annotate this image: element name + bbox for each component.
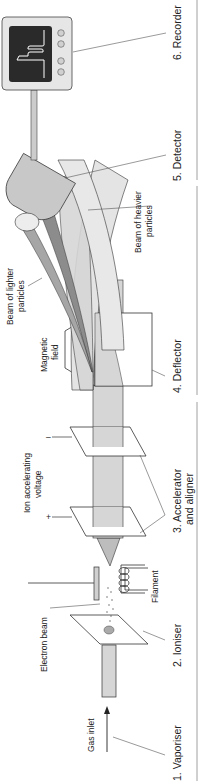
lighter-beam-label-1: Beam of lighter bbox=[5, 268, 15, 325]
mass-spectrometer-diagram: 1. Vaporiser 2. Ioniser 3. Accelerator a… bbox=[0, 0, 199, 781]
ion-beam-cone bbox=[97, 538, 120, 566]
stage-label-ioniser: 2. Ioniser bbox=[171, 623, 183, 667]
accelerator-plate-negative bbox=[70, 427, 146, 456]
detector-wire bbox=[31, 90, 37, 160]
stage-label-vaporiser: 1. Vaporiser bbox=[171, 725, 183, 781]
gas-inlet-tube bbox=[102, 645, 116, 697]
recorder-knob-4 bbox=[58, 69, 65, 76]
recorder-monitor bbox=[2, 17, 72, 90]
plus-sign: + bbox=[46, 512, 51, 522]
heavier-beam-label-1: Beam of heavier bbox=[133, 191, 143, 253]
gas-inlet-arrow-icon bbox=[104, 706, 110, 752]
heavier-beam-label-2: particles bbox=[144, 205, 154, 237]
magnetic-field-label-2: field bbox=[50, 344, 60, 360]
recorder-knob-3 bbox=[58, 58, 65, 65]
stage-label-accelerator: 3. Accelerator bbox=[171, 468, 183, 533]
recorder-knob-1 bbox=[58, 30, 65, 37]
filament-label: Filament bbox=[150, 570, 160, 603]
electron-plate bbox=[28, 567, 99, 600]
ion-voltage-label-2: voltage bbox=[33, 470, 43, 498]
voltage-leads bbox=[52, 437, 72, 517]
stage-label-accelerator-2: and aligner bbox=[183, 473, 195, 525]
filament-coil bbox=[119, 565, 148, 593]
stage-label-recorder: 6. Recorder bbox=[171, 5, 183, 60]
minus-sign: – bbox=[46, 432, 51, 442]
ioniser-plate bbox=[70, 615, 148, 644]
accelerator-plate-positive bbox=[70, 507, 146, 536]
stage-label-deflector: 4. Deflector bbox=[171, 339, 183, 393]
stage-label-detector: 5. Detector bbox=[171, 129, 183, 181]
electron-beam-label: Electron beam bbox=[39, 617, 49, 672]
gas-inlet-label: Gas inlet bbox=[86, 718, 96, 752]
ion-voltage-label-1: Ion accelerating bbox=[22, 453, 32, 513]
recorder-knob-2 bbox=[58, 41, 65, 48]
magnetic-field-label-1: Magnetic bbox=[39, 337, 49, 372]
lighter-beam-label-2: particles bbox=[16, 280, 26, 312]
